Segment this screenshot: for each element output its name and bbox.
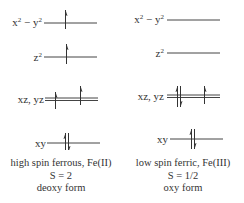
left-panel-high-spin-ferrous: x2 − y2 z2 xz, yz xy high spin ferrous, … [0,0,122,203]
orbital-label-z2: z2 [156,47,164,59]
electron-up-arrow-icon [67,44,69,64]
caption-spin-state: S = 2 [0,170,122,183]
electron-up-arrow-icon [64,133,66,150]
caption-form: deoxy form [0,182,122,195]
orbital-label-x2-y2: x2 − y2 [134,13,164,25]
orbital-label-z2: z2 [34,51,42,63]
label-part: − y [21,16,38,28]
orbital-label-xy: xy [35,137,46,149]
caption-line1: low spin ferric, Fe(III) [122,157,244,170]
right-panel-low-spin-ferric: x2 − y2 z2 xz, yz xy low spin ferric, Fe… [122,0,244,203]
label-part: − y [143,13,160,25]
caption-form: oxy form [122,182,244,195]
caption-line1: high spin ferrous, Fe(II) [0,157,122,170]
orbital-label-xz-yz: xz, yz [18,93,44,105]
label-part: 2 [161,47,165,55]
caption-spin-state: S = 1/2 [122,170,244,183]
label-part: 2 [39,51,43,59]
electron-down-arrow-icon [69,133,71,150]
label-part: 2 [161,13,165,21]
electron-up-arrow-icon [81,86,83,105]
orbital-label-xz-yz: xz, yz [138,90,164,102]
electron-up-arrow-icon [66,10,68,29]
electron-up-arrow-icon [176,86,178,107]
electron-down-arrow-icon [181,86,183,107]
label-part: 2 [39,16,43,24]
orbital-label-x2-y2: x2 − y2 [12,16,42,28]
orbital-label-xy: xy [157,133,168,145]
